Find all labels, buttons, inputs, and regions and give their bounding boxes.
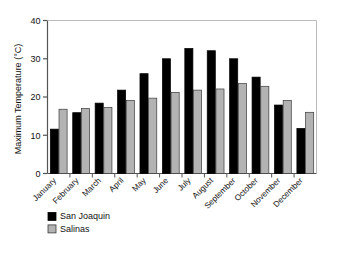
bar-salinas-october	[261, 86, 269, 173]
y-tick-label: 10	[30, 131, 40, 141]
bar-san-joaquin-march	[95, 103, 103, 173]
bar-san-joaquin-january	[50, 129, 58, 173]
bar-san-joaquin-december	[297, 128, 305, 173]
bar-san-joaquin-april	[118, 90, 126, 173]
y-axis-title: Maximum Temperature (°C)	[13, 44, 23, 154]
bar-salinas-march	[104, 107, 112, 173]
bar-salinas-april	[126, 100, 134, 173]
bar-san-joaquin-february	[73, 113, 81, 174]
y-tick-label: 20	[30, 92, 40, 102]
bar-san-joaquin-september	[230, 59, 238, 174]
bar-san-joaquin-august	[207, 51, 215, 174]
bar-san-joaquin-may	[140, 74, 148, 174]
legend-swatch-salinas	[48, 225, 56, 233]
bar-salinas-june	[171, 92, 179, 173]
y-tick-label: 40	[30, 16, 40, 26]
y-tick-label: 30	[30, 54, 40, 64]
bar-san-joaquin-october	[252, 77, 260, 173]
legend-label-san-joaquin: San Joaquin	[60, 211, 110, 221]
bar-salinas-july	[194, 90, 202, 173]
legend-swatch-san-joaquin	[48, 212, 56, 220]
chart-container: Maximum Temperature (°C) 010203040 Janua…	[0, 0, 339, 255]
bar-salinas-may	[149, 98, 157, 173]
bar-salinas-december	[306, 112, 314, 173]
y-tick-label: 0	[35, 169, 40, 179]
bar-salinas-august	[216, 89, 224, 174]
bar-san-joaquin-june	[162, 59, 170, 174]
bar-salinas-november	[283, 100, 291, 173]
bar-salinas-january	[59, 109, 67, 173]
legend-label-salinas: Salinas	[60, 224, 90, 234]
bar-chart: Maximum Temperature (°C) 010203040 Janua…	[0, 0, 339, 255]
bar-san-joaquin-november	[274, 105, 282, 173]
bar-san-joaquin-july	[185, 48, 193, 173]
bar-salinas-february	[81, 108, 89, 173]
bar-salinas-september	[238, 84, 246, 174]
